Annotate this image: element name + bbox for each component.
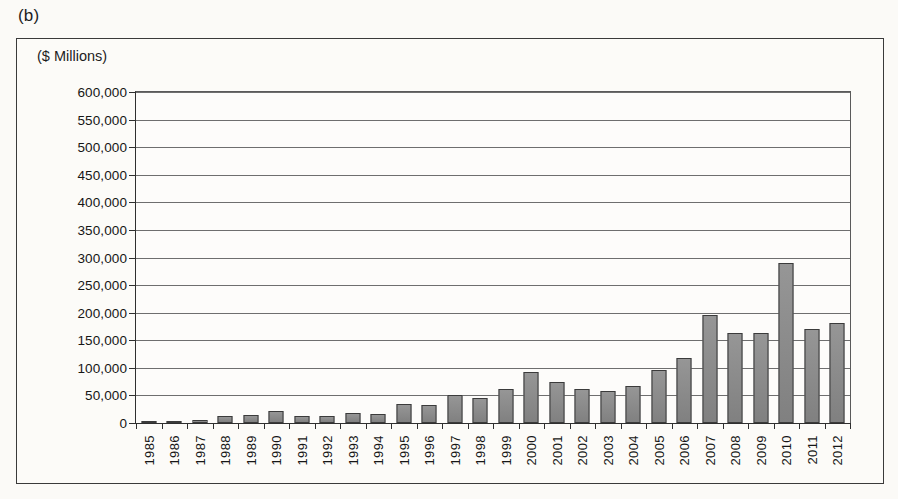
bar-slot	[315, 92, 341, 423]
bar[interactable]	[269, 411, 284, 423]
bar-slot	[748, 92, 774, 423]
bar[interactable]	[218, 416, 233, 423]
chart-frame: ($ Millions) 600,000550,000500,000450,00…	[16, 38, 884, 484]
bar[interactable]	[167, 421, 182, 423]
x-axis-tick-mark	[748, 423, 749, 429]
x-axis-tick-label: 1997	[448, 435, 463, 466]
bar-slot	[595, 92, 621, 423]
bar[interactable]	[600, 391, 615, 423]
bar[interactable]	[371, 414, 386, 423]
bar[interactable]	[141, 421, 156, 423]
x-axis-tick-label: 2001	[550, 435, 565, 466]
panel-label: (b)	[18, 6, 39, 26]
x-axis-tick-mark	[213, 423, 214, 429]
x-axis-tick-mark	[417, 423, 418, 429]
bar[interactable]	[779, 263, 794, 423]
y-axis-tick-label: 150,000	[78, 333, 128, 348]
bar[interactable]	[243, 415, 258, 423]
bar[interactable]	[677, 358, 692, 423]
x-axis-tick-label: 1996	[422, 435, 437, 466]
bar[interactable]	[422, 405, 437, 423]
x-axis-tick-mark	[646, 423, 647, 429]
bar-slot	[264, 92, 290, 423]
x-axis-tick-label: 2000	[524, 435, 539, 466]
y-axis-unit-label: ($ Millions)	[37, 48, 107, 64]
x-axis-tick-mark	[162, 423, 163, 429]
bar-slot	[672, 92, 698, 423]
x-axis-tick-mark	[825, 423, 826, 429]
bars-layer	[136, 92, 850, 423]
bar[interactable]	[294, 416, 309, 423]
x-axis-tick-label: 1986	[167, 435, 182, 466]
bar[interactable]	[396, 404, 411, 423]
bar[interactable]	[728, 333, 743, 423]
y-axis-tick-label: 250,000	[78, 278, 128, 293]
x-axis-tick-mark	[187, 423, 188, 429]
y-axis-tick-mark	[129, 147, 136, 148]
y-axis-tick-mark	[129, 175, 136, 176]
bar[interactable]	[524, 372, 539, 423]
bar[interactable]	[447, 395, 462, 423]
bar[interactable]	[575, 389, 590, 423]
y-axis-tick-label: 200,000	[78, 305, 128, 320]
bar[interactable]	[549, 382, 564, 423]
x-axis-tick-label: 2002	[575, 435, 590, 466]
bar-slot	[187, 92, 213, 423]
y-axis-tick-mark	[129, 340, 136, 341]
x-axis-tick-mark	[723, 423, 724, 429]
x-axis-tick-label: 2003	[601, 435, 616, 466]
bar-slot	[162, 92, 188, 423]
bar-slot	[391, 92, 417, 423]
figure-root: (b) ($ Millions) 600,000550,000500,00045…	[0, 0, 898, 499]
x-axis-tick-mark	[264, 423, 265, 429]
y-axis-tick-label: 100,000	[78, 360, 128, 375]
bar[interactable]	[192, 420, 207, 423]
bar[interactable]	[753, 333, 768, 423]
x-axis-tick-label: 1999	[499, 435, 514, 466]
bar[interactable]	[702, 315, 717, 423]
x-axis-tick-mark	[621, 423, 622, 429]
bar[interactable]	[804, 329, 819, 423]
bar-slot	[340, 92, 366, 423]
bar-slot	[136, 92, 162, 423]
bar[interactable]	[320, 416, 335, 423]
bar-slot	[366, 92, 392, 423]
bar[interactable]	[345, 413, 360, 423]
x-axis-tick-mark	[570, 423, 571, 429]
x-axis-tick-label: 1989	[244, 435, 259, 466]
x-axis-tick-mark	[315, 423, 316, 429]
x-axis-tick-label: 1995	[397, 435, 412, 466]
bar-slot	[799, 92, 825, 423]
bar-slot	[289, 92, 315, 423]
bar[interactable]	[626, 386, 641, 424]
x-axis-tick-label: 2010	[779, 435, 794, 466]
bar[interactable]	[830, 323, 845, 423]
bar-slot	[417, 92, 443, 423]
y-axis-tick-label: 350,000	[78, 222, 128, 237]
x-axis-tick-mark	[391, 423, 392, 429]
y-axis-tick-label: 50,000	[85, 388, 127, 403]
bar-slot	[238, 92, 264, 423]
x-axis-tick-mark	[340, 423, 341, 429]
x-axis-tick-label: 1994	[371, 435, 386, 466]
x-axis-tick-mark	[468, 423, 469, 429]
bar-slot	[723, 92, 749, 423]
bar-slot	[442, 92, 468, 423]
x-axis-tick-mark	[595, 423, 596, 429]
bar-slot	[519, 92, 545, 423]
bar[interactable]	[498, 389, 513, 423]
x-axis-tick-mark	[238, 423, 239, 429]
x-axis-tick-mark	[493, 423, 494, 429]
y-axis-tick-label: 0	[119, 416, 127, 431]
bar-slot	[621, 92, 647, 423]
x-axis-tick-label: 2005	[652, 435, 667, 466]
x-axis-tick-mark	[289, 423, 290, 429]
y-axis-tick-mark	[129, 120, 136, 121]
bar[interactable]	[651, 370, 666, 424]
plot-area: 600,000550,000500,000450,000400,000350,0…	[135, 91, 851, 424]
bar[interactable]	[473, 398, 488, 423]
x-axis-tick-mark	[672, 423, 673, 429]
bar-slot	[825, 92, 851, 423]
y-axis-tick-mark	[129, 92, 136, 93]
x-axis-tick-label: 2007	[703, 435, 718, 466]
